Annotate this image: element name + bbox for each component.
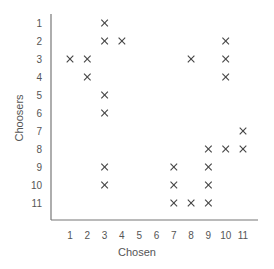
- x-marker-icon: [101, 92, 108, 99]
- y-tick-label: 2: [36, 36, 42, 47]
- y-tick-label: 1: [36, 18, 42, 29]
- y-axis-ticks: 1234567891011: [31, 18, 43, 209]
- y-tick-label: 11: [32, 198, 43, 209]
- x-marker-icon: [240, 146, 247, 153]
- sociogram-scatter-chart: 1234567891011 1234567891011 Chosen Choos…: [0, 0, 274, 269]
- x-marker-icon: [205, 200, 212, 207]
- data-markers: [67, 20, 247, 207]
- x-tick-label: 1: [67, 230, 73, 241]
- y-tick-label: 3: [36, 54, 42, 65]
- x-marker-icon: [188, 200, 195, 207]
- x-marker-icon: [101, 182, 108, 189]
- x-marker-icon: [222, 146, 229, 153]
- y-axis-label: Choosers: [13, 94, 25, 142]
- x-axis-label: Chosen: [118, 246, 156, 258]
- x-tick-label: 5: [136, 230, 142, 241]
- x-marker-icon: [67, 56, 74, 63]
- x-tick-label: 8: [188, 230, 194, 241]
- x-tick-label: 9: [206, 230, 212, 241]
- x-tick-label: 4: [119, 230, 125, 241]
- y-tick-label: 10: [31, 180, 43, 191]
- x-axis-ticks: 1234567891011: [67, 230, 248, 241]
- x-tick-label: 11: [238, 230, 249, 241]
- x-marker-icon: [101, 164, 108, 171]
- x-marker-icon: [171, 200, 178, 207]
- y-tick-label: 6: [36, 108, 42, 119]
- x-marker-icon: [205, 182, 212, 189]
- x-tick-label: 3: [102, 230, 108, 241]
- x-marker-icon: [222, 38, 229, 45]
- y-tick-label: 9: [36, 162, 42, 173]
- x-marker-icon: [101, 38, 108, 45]
- y-tick-label: 7: [36, 126, 42, 137]
- x-marker-icon: [205, 164, 212, 171]
- x-marker-icon: [188, 56, 195, 63]
- x-marker-icon: [222, 74, 229, 81]
- x-marker-icon: [222, 56, 229, 63]
- x-marker-icon: [240, 128, 247, 135]
- x-marker-icon: [84, 56, 91, 63]
- y-tick-label: 8: [36, 144, 42, 155]
- y-tick-label: 5: [36, 90, 42, 101]
- y-tick-label: 4: [36, 72, 42, 83]
- x-marker-icon: [101, 110, 108, 117]
- x-marker-icon: [84, 74, 91, 81]
- x-tick-label: 7: [171, 230, 177, 241]
- x-marker-icon: [205, 146, 212, 153]
- x-marker-icon: [171, 164, 178, 171]
- x-marker-icon: [171, 182, 178, 189]
- x-tick-label: 6: [154, 230, 160, 241]
- x-marker-icon: [119, 38, 126, 45]
- x-tick-label: 10: [220, 230, 232, 241]
- x-marker-icon: [101, 20, 108, 27]
- x-tick-label: 2: [85, 230, 91, 241]
